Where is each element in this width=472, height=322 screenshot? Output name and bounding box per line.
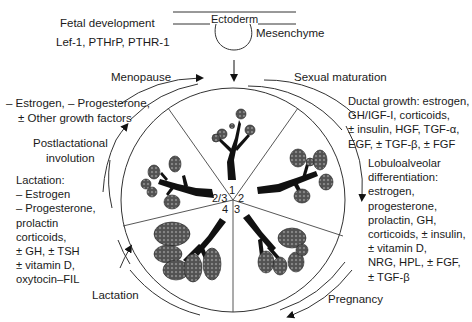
gland-stage-3 [243, 214, 308, 275]
menopause-factors-line2: ± Other growth factors [18, 111, 132, 126]
lactation-factor: prolactin [16, 216, 96, 230]
lobuloalveolar-line: ± TGF-β [368, 270, 466, 284]
lactation-factor: – Progesterone, [16, 201, 96, 215]
lobuloalveolar-line: corticoids, ± insulin, [368, 227, 466, 241]
lactation-factor: – Estrogen [16, 187, 96, 201]
ductal-growth-factors: Ductal growth: estrogen, GH/IGF-I, corti… [348, 94, 469, 151]
stage-number-1: 1 [229, 184, 235, 196]
lobuloalveolar-line: estrogen, [368, 184, 466, 198]
fetal-development-label: Fetal development [60, 16, 155, 31]
gland-stage-involution [141, 156, 214, 209]
lactation-label: Lactation [92, 288, 139, 303]
gland-stage-4 [154, 218, 226, 282]
menopause-label: Menopause [111, 70, 171, 85]
lactation-factor: Lactation: [16, 173, 96, 187]
ductal-growth-line: ± insulin, HGF, TGF-α, [348, 122, 469, 136]
fetal-factors-label: Lef-1, PTHrP, PTHR-1 [56, 35, 170, 50]
menopause-factors-line1: – Estrogen, – Progesterone, [6, 96, 150, 111]
lactation-factor: corticoids, [16, 230, 96, 244]
lobuloalveolar-line: Lobuloalveolar [368, 156, 466, 170]
lactation-factor: ± GH, ± TSH [16, 244, 96, 258]
stage-number-4: 4 [222, 203, 228, 215]
lactation-factor: oxytocin–FIL [16, 272, 96, 286]
lactation-factor: ± vitamin D, [16, 258, 96, 272]
lactation-factors: Lactation: – Estrogen – Progesterone, pr… [16, 173, 96, 287]
postlactational-label-2: involution [46, 151, 95, 166]
gland-stage-1 [212, 109, 255, 180]
ductal-growth-line: Ductal growth: estrogen, [348, 94, 469, 108]
gland-stage-2 [257, 149, 333, 203]
lobuloalveolar-line: NRG, HPL, ± FGF, [368, 255, 466, 269]
ductal-growth-line: GH/IGF-I, corticoids, [348, 108, 469, 122]
postlactational-label-1: Postlactational [33, 136, 108, 151]
lobuloalveolar-line: prolactin, GH, [368, 213, 466, 227]
lobuloalveolar-factors: Lobuloalveolar differentiation: estrogen… [368, 156, 466, 284]
lobuloalveolar-line: differentiation: [368, 170, 466, 184]
lobuloalveolar-line: progesterone, [368, 199, 466, 213]
sexual-maturation-label: Sexual maturation [294, 70, 387, 85]
lobuloalveolar-line: ± vitamin D, [368, 241, 466, 255]
pregnancy-label: Pregnancy [328, 292, 383, 307]
stage-number-3: 3 [234, 203, 240, 215]
mesenchyme-label: Mesenchyme [256, 26, 324, 41]
ductal-growth-line: EGF, ± TGF-β, ± FGF [348, 137, 469, 151]
ectoderm-label: Ectoderm [211, 12, 258, 27]
